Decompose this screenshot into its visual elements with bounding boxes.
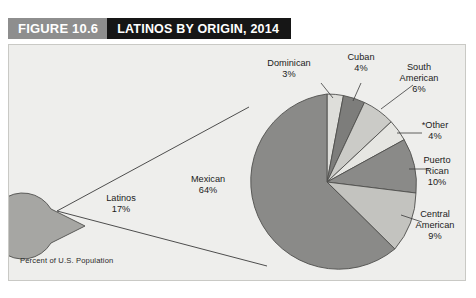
figure-title-bar: FIGURE 10.6 LATINOS BY ORIGIN, 2014 — [8, 18, 268, 39]
label-puerto-rican-line1: Puerto — [423, 155, 450, 165]
chart-panel: Dominican 3% Cuban 4% South American 6% … — [8, 44, 466, 281]
label-mexican-line1: Mexican — [191, 174, 225, 184]
chart-footnote: Percent of U.S. Population — [20, 256, 113, 265]
label-mexican-pct: 64% — [177, 185, 239, 196]
label-puerto-rican: Puerto Rican 10% — [411, 155, 463, 189]
label-dominican-line1: Dominican — [267, 58, 310, 68]
label-mexican: Mexican 64% — [177, 174, 239, 196]
figure-title-text: LATINOS BY ORIGIN, 2014 — [107, 18, 291, 39]
label-other: *Other 4% — [409, 120, 461, 142]
label-central-american-pct: 9% — [405, 231, 465, 242]
label-dominican: Dominican 3% — [249, 58, 329, 80]
label-cuban-pct: 4% — [333, 63, 389, 74]
label-latinos-pct: 17% — [95, 204, 147, 215]
label-other-pct: 4% — [409, 131, 461, 142]
label-other-line1: *Other — [422, 120, 449, 130]
label-latinos-line1: Latinos — [106, 193, 136, 203]
label-central-american-line2: American — [416, 220, 455, 230]
label-cuban-line1: Cuban — [347, 52, 374, 62]
label-cuban: Cuban 4% — [333, 52, 389, 74]
label-central-american-line1: Central — [420, 209, 450, 219]
label-south-american: South American 6% — [387, 62, 451, 96]
small-circle-latinos — [9, 193, 85, 259]
label-latinos: Latinos 17% — [95, 193, 147, 215]
label-puerto-rican-pct: 10% — [411, 177, 463, 188]
label-south-american-line2: American — [400, 73, 439, 83]
leader-line-cuban — [353, 83, 361, 101]
figure-number-tag: FIGURE 10.6 — [8, 18, 107, 39]
label-south-american-line1: South — [407, 62, 431, 72]
label-central-american: Central American 9% — [405, 209, 465, 243]
label-dominican-pct: 3% — [249, 69, 329, 80]
pie-slices — [251, 94, 417, 269]
label-puerto-rican-line2: Rican — [425, 166, 449, 176]
label-south-american-pct: 6% — [387, 84, 451, 95]
